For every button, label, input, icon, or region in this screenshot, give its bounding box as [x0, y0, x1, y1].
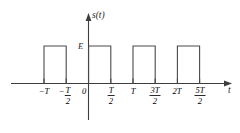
- tick-label-neg-T-text: −T: [39, 86, 49, 96]
- fraction-denominator: 2: [65, 97, 72, 106]
- y-axis-label: s(t): [92, 11, 105, 21]
- fraction-3T-over-2: 3T 2: [150, 86, 161, 105]
- tick-label-3T-half: 3T 2: [150, 86, 161, 105]
- fraction-T-over-2: T 2: [65, 86, 72, 105]
- tick-label-2T-text: 2T: [173, 86, 182, 96]
- tick-label-neg-T: −T: [39, 86, 49, 96]
- fraction-numerator: T: [65, 86, 72, 95]
- pulse-2: [89, 46, 111, 84]
- x-axis-label: t: [228, 86, 231, 96]
- tick-label-neg-T-half: − T 2: [59, 86, 71, 105]
- y-axis-arrow-icon: [86, 13, 92, 21]
- tick-label-T: T: [131, 86, 136, 96]
- fraction-T-over-2: T 2: [108, 86, 115, 105]
- pulse-train-figure: s(t) t E −T − T 2 0 T 2 T 3T 2: [0, 0, 240, 133]
- fraction-denominator: 2: [108, 97, 115, 106]
- pulse-4: [177, 46, 199, 84]
- fraction-numerator: 5T: [195, 86, 206, 95]
- pulse-3: [133, 46, 155, 84]
- fraction-5T-over-2: 5T 2: [195, 86, 206, 105]
- tick-label-2T: 2T: [173, 86, 182, 96]
- pulse-1: [44, 46, 66, 84]
- tick-label-5T-half: 5T 2: [195, 86, 206, 105]
- tick-label-origin-text: 0: [82, 86, 86, 96]
- x-axis-ticks: [44, 79, 200, 84]
- tick-label-T-half: T 2: [108, 86, 115, 105]
- tick-label-origin: 0: [82, 86, 86, 96]
- fraction-numerator: 3T: [150, 86, 161, 95]
- fraction-denominator: 2: [195, 97, 206, 106]
- fraction-denominator: 2: [150, 97, 161, 106]
- waveform-pulses: [44, 46, 200, 84]
- fraction-numerator: T: [108, 86, 115, 95]
- plot-canvas: [0, 0, 240, 133]
- amplitude-label-E: E: [78, 42, 83, 51]
- tick-label-T-text: T: [131, 86, 136, 96]
